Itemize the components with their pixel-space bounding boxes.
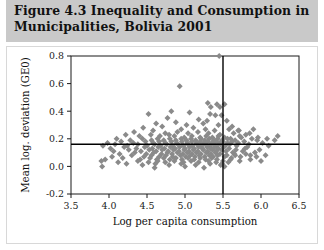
scatter-point: [195, 129, 201, 135]
scatter-point: [131, 129, 137, 135]
scatter-point: [184, 122, 190, 128]
scatter-point: [235, 128, 241, 134]
scatter-point: [146, 111, 152, 117]
x-tick-label: 3.5: [64, 200, 79, 211]
scatter-point: [138, 148, 144, 154]
scatter-point: [249, 136, 255, 142]
scatter-points-group: [98, 53, 280, 171]
y-tick-label: 0.4: [49, 106, 64, 117]
x-tick-label: 6.0: [254, 200, 269, 211]
scatter-point: [215, 122, 221, 128]
scatter-point: [152, 165, 158, 171]
scatter-point: [173, 119, 179, 125]
scatter-point: [201, 165, 207, 171]
x-tick-label: 5.5: [216, 200, 231, 211]
y-tick-label: 0.0: [49, 161, 64, 172]
scatter-point: [212, 112, 218, 118]
scatter-point: [231, 130, 237, 136]
figure-root: Figure 4.3 Inequality and Consumption in…: [0, 0, 324, 250]
scatter-point: [190, 125, 196, 131]
scatter-point: [139, 162, 145, 168]
scatter-point: [258, 158, 264, 164]
chart-panel: -0.20.00.20.40.60.83.54.04.55.05.56.06.5…: [6, 46, 318, 244]
scatter-point: [114, 136, 120, 142]
scatter-point: [187, 110, 193, 116]
scatter-plot: -0.20.00.20.40.60.83.54.04.55.05.56.06.5…: [7, 47, 317, 243]
scatter-point: [165, 115, 171, 121]
scatter-point: [264, 136, 270, 142]
scatter-point: [263, 152, 269, 158]
scatter-point: [250, 126, 256, 132]
x-tick-label: 5.0: [178, 200, 193, 211]
scatter-point: [224, 118, 230, 124]
scatter-point: [207, 111, 213, 117]
y-tick-label: 0.8: [49, 50, 64, 61]
y-axis-title: Mean log. deviation (GE0): [20, 57, 31, 193]
scatter-point: [256, 147, 262, 153]
scatter-point: [153, 121, 159, 127]
x-tick-label: 4.0: [102, 200, 117, 211]
page-title: Figure 4.3 Inequality and Consumption in…: [14, 3, 310, 35]
y-tick-label: -0.2: [46, 188, 64, 199]
scatter-point: [99, 163, 105, 169]
scatter-point: [247, 157, 253, 163]
figure-title-band: Figure 4.3 Inequality and Consumption in…: [6, 0, 318, 42]
y-tick-label: 0.6: [49, 78, 64, 89]
x-tick-label: 6.5: [292, 200, 307, 211]
scatter-point: [177, 83, 183, 89]
scatter-point: [159, 123, 165, 129]
scatter-point: [237, 158, 243, 164]
scatter-point: [115, 159, 121, 165]
x-axis-title: Log per capita consumption: [113, 216, 258, 227]
scatter-point: [216, 53, 222, 59]
scatter-point: [196, 116, 202, 122]
scatter-point: [168, 108, 174, 114]
scatter-point: [109, 154, 115, 160]
y-tick-label: 0.2: [49, 133, 64, 144]
scatter-point: [123, 132, 129, 138]
scatter-point: [260, 140, 266, 146]
scatter-point: [266, 143, 272, 149]
scatter-point: [140, 125, 146, 131]
scatter-point: [123, 161, 129, 167]
scatter-point: [212, 128, 218, 134]
scatter-point: [104, 140, 110, 146]
scatter-point: [100, 143, 106, 149]
x-tick-label: 4.5: [140, 200, 155, 211]
